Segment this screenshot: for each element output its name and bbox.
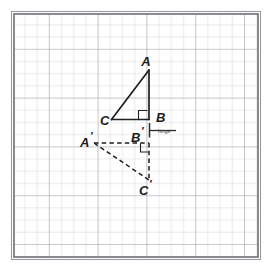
diagram-canvas: hinge A B C A ′ B ′ bbox=[0, 0, 273, 271]
label-a-prime: A bbox=[79, 135, 89, 150]
label-a: A bbox=[140, 54, 150, 69]
label-c-prime: C bbox=[139, 183, 149, 198]
label-b-prime: B bbox=[131, 130, 140, 145]
geometry-figure: hinge A B C A ′ B ′ bbox=[0, 0, 273, 271]
label-c: C bbox=[100, 113, 110, 128]
hinge-label: hinge bbox=[158, 128, 170, 134]
label-b: B bbox=[156, 110, 165, 125]
